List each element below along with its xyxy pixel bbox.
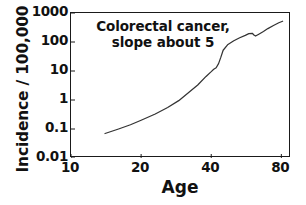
x-tick-label: 80 (260, 159, 300, 175)
chart-figure: Incidence / 100,000 0.010.11101001000 Co… (0, 0, 306, 205)
x-axis-title: Age (70, 177, 290, 197)
x-tick-label: 20 (120, 159, 160, 175)
x-tick-label: 40 (190, 159, 230, 175)
x-tick-label: 10 (50, 159, 90, 175)
x-axis-tick-labels: 10204080 (0, 0, 306, 205)
